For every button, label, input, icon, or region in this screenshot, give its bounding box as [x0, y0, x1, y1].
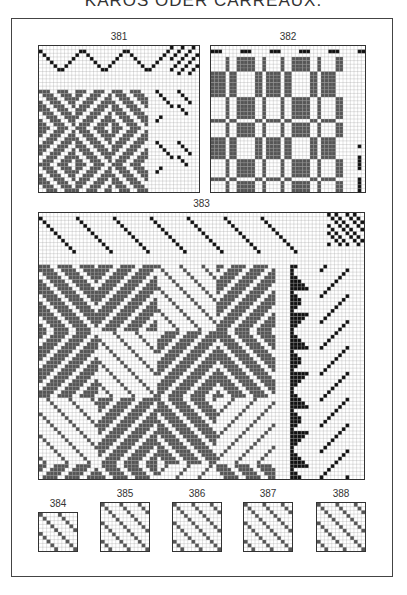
page-title: KARÓS ODER CARREAUX. — [0, 0, 407, 11]
weave-draft-382 — [210, 45, 366, 193]
weave-draft-384 — [38, 512, 78, 552]
weave-draft-383 — [38, 212, 365, 480]
weave-draft-385 — [100, 502, 150, 552]
figure-label-387: 387 — [243, 488, 293, 499]
figure-label-383: 383 — [38, 198, 365, 209]
figure-label-388: 388 — [316, 488, 366, 499]
figure-label-385: 385 — [100, 488, 150, 499]
weave-draft-388 — [316, 502, 366, 552]
figure-label-386: 386 — [172, 488, 222, 499]
figure-label-384: 384 — [38, 498, 78, 509]
figure-label-381: 381 — [38, 31, 200, 42]
weave-draft-381 — [38, 45, 200, 193]
figure-label-382: 382 — [210, 31, 366, 42]
weave-draft-387 — [243, 502, 293, 552]
weave-draft-386 — [172, 502, 222, 552]
